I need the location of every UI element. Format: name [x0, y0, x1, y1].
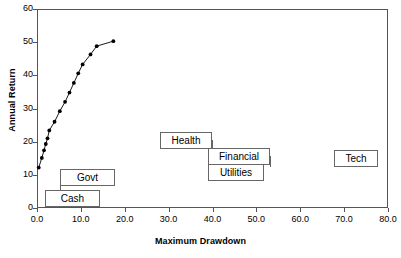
x-tick-mark: [37, 208, 38, 212]
x-tick-label: 20.0: [105, 214, 145, 224]
y-tick-mark: [33, 142, 37, 143]
annotation-label-cash: Cash: [45, 190, 100, 207]
x-tick-mark: [81, 208, 82, 212]
y-tick-label: 10: [7, 169, 33, 179]
y-tick-label: 40: [7, 69, 33, 79]
annotation-label-tech: Tech: [334, 150, 378, 167]
annotation-label-utilities: Utilities: [208, 164, 264, 181]
x-tick-label: 0.0: [17, 214, 57, 224]
x-tick-mark: [125, 208, 126, 212]
annotation-label-financial: Financial: [208, 148, 270, 165]
x-tick-mark: [344, 208, 345, 212]
x-tick-mark: [213, 208, 214, 212]
annotation-label-govt: Govt: [60, 169, 115, 186]
y-tick-label: 20: [7, 136, 33, 146]
y-tick-mark: [33, 175, 37, 176]
x-tick-mark: [256, 208, 257, 212]
x-axis-title: Maximum Drawdown: [0, 236, 401, 246]
y-tick-label: 60: [7, 3, 33, 13]
x-tick-label: 10.0: [61, 214, 101, 224]
x-tick-label: 60.0: [280, 214, 320, 224]
x-tick-mark: [388, 208, 389, 212]
y-tick-label: 50: [7, 36, 33, 46]
y-tick-label: 30: [7, 103, 33, 113]
y-tick-mark: [33, 109, 37, 110]
x-tick-label: 70.0: [324, 214, 364, 224]
y-tick-mark: [33, 42, 37, 43]
annotation-leader-line: [60, 177, 61, 190]
y-tick-mark: [33, 9, 37, 10]
y-tick-mark: [33, 75, 37, 76]
x-tick-mark: [300, 208, 301, 212]
x-tick-label: 80.0: [368, 214, 401, 224]
x-tick-label: 40.0: [193, 214, 233, 224]
annotation-label-health: Health: [160, 132, 212, 149]
x-tick-label: 30.0: [149, 214, 189, 224]
chart-container: Annual Return Maximum Drawdown 010203040…: [0, 0, 401, 258]
x-tick-label: 50.0: [236, 214, 276, 224]
annotation-leader-line: [270, 156, 271, 167]
y-tick-label: 0: [7, 202, 33, 212]
x-tick-mark: [169, 208, 170, 212]
